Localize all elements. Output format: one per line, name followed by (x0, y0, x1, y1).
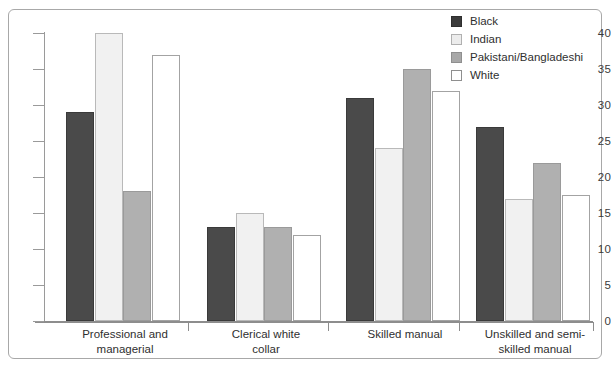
legend-item: Indian (451, 31, 601, 47)
bar (123, 191, 151, 321)
legend-label: Pakistani/Bangladeshi (470, 51, 583, 63)
group-separator-tick (459, 322, 460, 331)
legend-item: Pakistani/Bangladeshi (451, 49, 601, 65)
bar (432, 91, 460, 321)
bar (346, 98, 374, 321)
bar (562, 195, 590, 321)
category-label-line: collar (191, 342, 341, 357)
category-label-line: Professional and (50, 327, 200, 342)
bar (207, 227, 235, 321)
category-label-line: skilled manual (460, 342, 610, 357)
category-label: Clerical whitecollar (191, 327, 341, 356)
bar (66, 112, 94, 321)
bar (375, 148, 403, 321)
bar (505, 199, 533, 321)
bar (236, 213, 264, 321)
legend-label: Indian (470, 33, 501, 45)
category-label: Unskilled and semi-skilled manual (460, 327, 610, 356)
y-tick-mark (33, 321, 44, 322)
legend-item: White (451, 67, 601, 83)
bar (533, 163, 561, 321)
category-label-line: managerial (50, 342, 200, 357)
legend-label: Black (470, 15, 498, 27)
x-axis-line (35, 321, 593, 323)
bar (95, 33, 123, 321)
chart-screenshot: 0510152025303540 Professional andmanager… (0, 0, 611, 369)
group-separator-tick (328, 322, 329, 331)
legend-item: Black (451, 13, 601, 29)
legend-swatch-icon (451, 34, 462, 45)
category-label-line: Unskilled and semi- (460, 327, 610, 342)
category-label: Professional andmanagerial (50, 327, 200, 356)
bar (403, 69, 431, 321)
chart-legend: BlackIndianPakistani/BangladeshiWhite (451, 13, 601, 85)
category-label-line: Skilled manual (330, 327, 480, 342)
legend-swatch-icon (451, 52, 462, 63)
group-separator-tick (593, 322, 594, 331)
bar (476, 127, 504, 321)
bar (293, 235, 321, 321)
category-label: Skilled manual (330, 327, 480, 342)
legend-swatch-icon (451, 16, 462, 27)
category-label-line: Clerical white (191, 327, 341, 342)
legend-swatch-icon (451, 70, 462, 81)
group-separator-tick (188, 322, 189, 331)
bar (264, 227, 292, 321)
legend-label: White (470, 69, 499, 81)
bar (152, 55, 180, 321)
